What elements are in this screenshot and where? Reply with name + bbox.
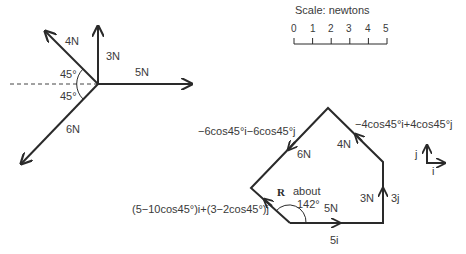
- angle-note-about: about: [293, 185, 321, 197]
- angle-upper-label: 45°: [60, 68, 77, 80]
- angle-note-value: 142°: [297, 198, 320, 210]
- side-4-label: 4N: [337, 138, 351, 150]
- scale-title: Scale: newtons: [295, 4, 370, 16]
- side-3-label: 3N: [360, 192, 374, 204]
- force-5n-label: 5N: [135, 66, 149, 78]
- scale-tick-3: 3: [346, 23, 352, 34]
- side-6-arrow: [288, 142, 295, 150]
- vector-diagram: 4N 3N 5N 6N 45° 45° Scale: newtons 0 1 2…: [0, 0, 466, 254]
- scale-bar: Scale: newtons 0 1 2 3 4 5: [291, 4, 389, 44]
- scale-tick-5: 5: [383, 23, 389, 34]
- force-3n-label: 3N: [106, 50, 120, 62]
- resultant-label: R: [277, 186, 286, 198]
- i-label: i: [432, 165, 434, 177]
- scale-tick-2: 2: [328, 23, 334, 34]
- side-6-vector: −6cos45°i−6cos45°j: [198, 125, 295, 137]
- side-4-arrow: [355, 134, 362, 141]
- scale-tick-1: 1: [310, 23, 316, 34]
- resultant-vector: (5−10cos45°)i+(3−2cos45°)j: [132, 203, 269, 215]
- side-5-vector: 5i: [330, 234, 339, 246]
- j-label: j: [414, 148, 417, 160]
- scale-tick-4: 4: [365, 23, 371, 34]
- force-diagram: 4N 3N 5N 6N 45° 45°: [10, 26, 192, 164]
- side-4-vector: −4cos45°i+4cos45°j: [355, 118, 452, 130]
- force-polygon: 5N 5i 3N 3j 4N −4cos45°i+4cos45°j 6N −6c…: [132, 108, 452, 246]
- scale-tick-0: 0: [291, 23, 297, 34]
- axes-key: j i: [414, 145, 445, 177]
- angle-lower-label: 45°: [60, 90, 77, 102]
- side-5-label: 5N: [324, 202, 338, 214]
- force-4n-label: 4N: [65, 35, 79, 47]
- side-6-label: 6N: [297, 148, 311, 160]
- force-6n-label: 6N: [66, 123, 80, 135]
- side-3-vector: 3j: [391, 192, 400, 204]
